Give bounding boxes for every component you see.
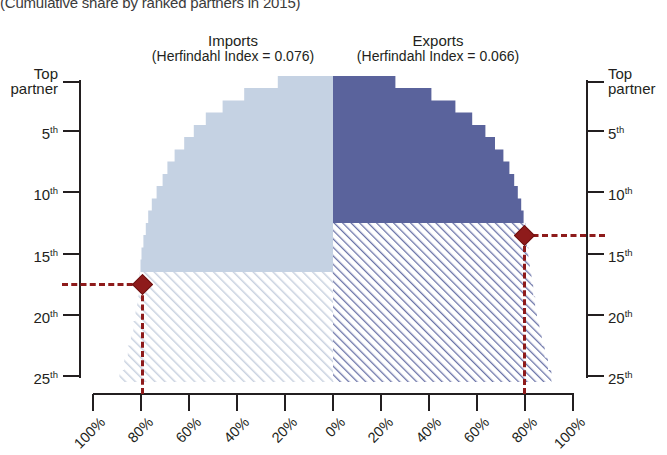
x-tick-right-60: [476, 394, 478, 411]
x-tick-right-80: [524, 394, 526, 411]
y-tick-left-20: [63, 314, 81, 316]
y-tick-right-25: [586, 375, 604, 377]
x-tick-left-60: [188, 394, 190, 411]
imports-area-solid: [140, 76, 333, 284]
exports-area-solid: [333, 76, 526, 235]
x-tick-left-100: [92, 394, 94, 411]
y-tick-left-15: [63, 253, 81, 255]
y-tick-right-20: [586, 314, 604, 316]
plot-area: [0, 0, 667, 455]
y-axis-right-label-10: 10th: [608, 183, 666, 202]
y-axis-right-label-5: 5th: [608, 122, 666, 141]
exports-marker-leader-horizontal: [523, 234, 605, 237]
x-tick-left-20: [284, 394, 286, 411]
y-axis-right-label-25: 25th: [608, 367, 666, 386]
x-tick-right-100: [572, 394, 574, 411]
y-axis-left-label-top-partner: Toppartner: [0, 66, 58, 96]
y-tick-left-1: [63, 81, 81, 83]
y-axis-left-label-25: 25th: [0, 367, 58, 386]
y-tick-left-25: [63, 375, 81, 377]
exports-area-hatched: [333, 223, 551, 382]
y-axis-right-label-20: 20th: [608, 306, 666, 325]
y-axis-left: [79, 80, 81, 378]
x-tick-left-80: [140, 394, 142, 411]
chart-root: (Cumulative share by ranked partners in …: [0, 0, 667, 455]
y-tick-right-10: [586, 191, 604, 193]
y-tick-right-1: [586, 81, 604, 83]
y-axis-left-label-15: 15th: [0, 245, 58, 264]
y-tick-right-5: [586, 130, 604, 132]
y-axis-right-label-15: 15th: [608, 245, 666, 264]
y-axis-left-label-20: 20th: [0, 306, 58, 325]
exports-marker-leader-vertical: [523, 237, 526, 394]
y-tick-left-10: [63, 191, 81, 193]
imports-area-hatched: [119, 272, 333, 382]
y-tick-left-5: [63, 130, 81, 132]
x-tick-left-40: [236, 394, 238, 411]
y-tick-right-15: [586, 253, 604, 255]
x-tick-right-20: [380, 394, 382, 411]
y-axis-right: [586, 80, 588, 378]
imports-marker-leader-horizontal: [62, 283, 142, 286]
y-axis-left-label-10: 10th: [0, 183, 58, 202]
y-axis-left-label-5: 5th: [0, 122, 58, 141]
x-tick-left-0: [332, 394, 334, 411]
imports-marker-leader-vertical: [141, 286, 144, 394]
y-axis-right-label-top-partner: Toppartner: [608, 66, 666, 96]
x-tick-right-40: [428, 394, 430, 411]
